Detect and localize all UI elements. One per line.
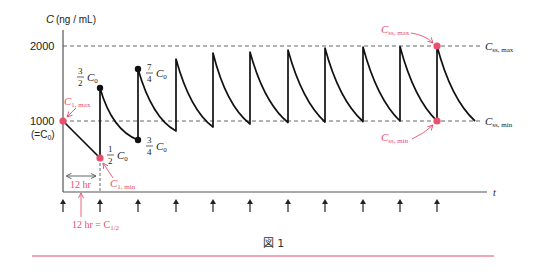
dose-arrow-icon	[434, 199, 440, 212]
pk-chart: C(ng / mL) 2000 1000 (=C0) t C1, max C1,…	[0, 0, 547, 272]
dose-arrow-icon	[60, 199, 66, 212]
arrow-c1-max	[67, 108, 76, 117]
svg-text:C0: C0	[87, 71, 98, 85]
x-axis-label: t	[493, 187, 496, 198]
interval-label: 12 hr	[70, 179, 92, 190]
dose-arrow-icon	[97, 199, 103, 212]
caption-rule	[32, 255, 494, 257]
point-three-half-c0	[97, 85, 103, 91]
point-c1-min	[96, 154, 103, 161]
label-three-quarter-c0: 3 4 C0	[146, 135, 167, 157]
point-c1-max	[59, 117, 66, 124]
svg-text:7: 7	[147, 62, 152, 72]
y-tick-2000: 2000	[30, 40, 54, 52]
label-css-min-right: Css, min	[485, 115, 513, 129]
label-seven-quarter-c0: 7 4 C0	[146, 62, 167, 84]
svg-text:C0: C0	[156, 140, 167, 154]
svg-text:3: 3	[147, 135, 152, 145]
point-three-quarter-c0	[135, 137, 141, 143]
dose-arrows	[60, 199, 440, 212]
label-css-min: Css, min	[381, 131, 409, 145]
figure-caption: 図 1	[0, 234, 547, 250]
point-css-min	[433, 117, 440, 124]
svg-text:3: 3	[78, 66, 83, 76]
dose-arrow-icon	[135, 199, 141, 212]
label-css-max: Css, max	[381, 23, 410, 37]
label-css-max-right: Css, max	[485, 40, 514, 54]
arrow-css-max	[411, 33, 433, 43]
label-c1-min: C1, min	[110, 177, 136, 191]
svg-text:1: 1	[108, 144, 113, 154]
dose-arrow-icon	[210, 199, 216, 212]
axes	[63, 30, 487, 192]
label-half-life: 12 hr = C1/2	[72, 219, 120, 232]
svg-text:4: 4	[147, 74, 152, 84]
arrow-css-min	[412, 125, 433, 139]
svg-text:2: 2	[78, 78, 83, 88]
y-axis-label: C(ng / mL)	[46, 13, 96, 25]
label-three-half-c0: 3 2 C0	[77, 66, 98, 88]
svg-text:4: 4	[147, 147, 152, 157]
concentration-curve	[63, 46, 475, 158]
dose-arrow-icon	[360, 199, 366, 212]
dose-arrow-icon	[285, 199, 291, 212]
label-half-c0: 1 2 C0	[107, 144, 128, 166]
y-tick-1000-sub: (=C0)	[31, 129, 55, 141]
dose-arrow-icon	[397, 199, 403, 212]
label-c1-max: C1, max	[64, 95, 91, 109]
dose-arrow-icon	[173, 199, 179, 212]
svg-text:2: 2	[108, 156, 113, 166]
svg-text:C0: C0	[156, 67, 167, 81]
svg-text:C0: C0	[117, 149, 128, 163]
dose-arrow-icon	[247, 199, 253, 212]
point-css-max	[433, 42, 440, 49]
dose-arrow-icon	[322, 199, 328, 212]
y-tick-1000: 1000	[30, 115, 54, 127]
point-seven-quarter-c0	[135, 66, 141, 72]
